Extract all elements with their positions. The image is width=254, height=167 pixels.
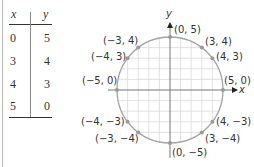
y-axis-label: y [165,8,173,19]
point-marker [200,46,204,50]
point-marker [168,141,172,145]
point-marker [210,56,214,60]
point-label: (−4, −3) [81,116,125,127]
point-label: (−4, 3) [91,51,126,62]
point-marker [115,88,119,92]
point-marker [136,46,140,50]
point-label: (3, 4) [205,36,232,47]
circle-graph: y x (0, 5) (3, 4) (4, 3) (5, 0) (4, −3) … [0,0,254,167]
point-label: (−3, 4) [103,35,138,46]
point-marker [126,120,130,124]
point-marker [210,120,214,124]
figure: x y 0 5 3 4 4 3 5 0 [0,0,254,167]
point-label: (3, −4) [205,133,240,144]
point-marker [200,130,204,134]
point-label: (0, −5) [172,147,207,158]
point-label: (0, 5) [174,24,201,35]
point-label: (5, 0) [224,75,251,86]
point-label: (4, −3) [216,116,251,127]
point-label: (4, 3) [216,51,243,62]
point-label: (−3, −4) [95,133,139,144]
point-marker [221,88,225,92]
point-label: (−5, 0) [82,75,117,86]
point-marker [168,35,172,39]
